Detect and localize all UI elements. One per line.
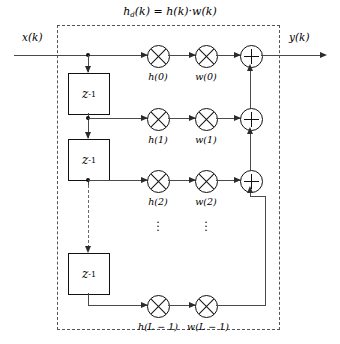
multiplier-w-0: [195, 45, 218, 68]
equation-rhs: h(k)·w(k): [166, 5, 217, 18]
input-label: x(k): [22, 31, 42, 43]
sum2-feed-arrow-icon: [247, 186, 253, 193]
equation-lhs-arg: (k) =: [135, 5, 166, 18]
coefficient-w-0: w(0): [185, 71, 227, 82]
delay-block-2: z-1: [68, 139, 110, 181]
delay-last-input-arrow-icon: [85, 246, 91, 253]
multiplier-h-0: [147, 45, 170, 68]
row-last-riser-to-sum2: [250, 196, 266, 197]
multiplier-h-last: [147, 295, 170, 318]
ellipsis-dot: .: [142, 226, 174, 230]
delay-block-last: z-1: [68, 253, 110, 295]
coefficient-w-1: w(1): [185, 134, 227, 145]
sum1-to-sum0-wire: [250, 66, 251, 108]
delay-exponent-last: -1: [88, 270, 96, 279]
output-arrow-icon: [320, 52, 327, 58]
coefficient-h-2: h(2): [137, 196, 179, 207]
multiplier-w-2: [195, 170, 218, 193]
ellipsis-dot: .: [190, 226, 222, 230]
multiplier-w-last: [195, 295, 218, 318]
delay-chain-continuation-dashed: [88, 185, 89, 248]
coefficient-h-last: h(L − 1): [131, 321, 185, 332]
multiplier-w-1: [195, 108, 218, 131]
multiplier-h-2: [147, 170, 170, 193]
delay-exponent-1: -1: [88, 90, 96, 99]
input-wire: [14, 55, 148, 56]
delay-block-1: z-1: [68, 73, 110, 115]
title-equation: hd(k) = h(k)·w(k): [0, 6, 340, 19]
multiplier-h-1: [147, 108, 170, 131]
fir-block-diagram: hd(k) = h(k)·w(k) x(k) z-1 z-1 z-1 h(0) …: [0, 0, 340, 344]
sum0-feed-arrow-icon: [247, 64, 253, 71]
coefficient-h-0: h(0): [137, 71, 179, 82]
delay1-input-arrow-icon: [85, 66, 91, 73]
ellipsis-h-column: . . .: [142, 218, 174, 230]
delay2-input-arrow-icon: [85, 132, 91, 139]
coefficient-h-1: h(1): [137, 134, 179, 145]
tap-last-wire: [88, 305, 148, 306]
row-last-wire-to-riser: [216, 305, 266, 306]
tap2-wire: [88, 180, 148, 181]
sum2-to-sum1-wire: [250, 129, 251, 170]
coefficient-w-last: w(L − 1): [181, 321, 235, 332]
row-last-riser-wire: [265, 196, 266, 306]
output-wire: [261, 55, 323, 56]
ellipsis-w-column: . . .: [190, 218, 222, 230]
delay-exponent-2: -1: [88, 156, 96, 165]
coefficient-w-2: w(2): [185, 196, 227, 207]
sum1-feed-arrow-icon: [247, 127, 253, 134]
output-label: y(k): [289, 31, 310, 43]
tap1-wire: [88, 118, 148, 119]
